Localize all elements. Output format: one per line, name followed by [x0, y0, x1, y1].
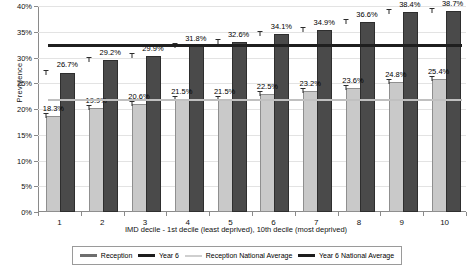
- error-whisker: [260, 32, 261, 36]
- y-tick-label: 25%: [17, 79, 32, 88]
- y-tick-label: 0%: [21, 208, 32, 217]
- error-cap: [301, 88, 306, 89]
- x-tick: [380, 212, 381, 216]
- data-label: 25.4%: [428, 67, 449, 76]
- y-tick: [34, 32, 38, 33]
- error-cap: [130, 53, 135, 54]
- data-label: 38.7%: [442, 0, 463, 8]
- y-tick: [34, 186, 38, 187]
- error-cap: [130, 101, 135, 102]
- error-cap: [87, 57, 92, 58]
- y-tick: [34, 58, 38, 59]
- bar-year6: [189, 46, 204, 212]
- legend-label: Year 6: [159, 252, 179, 259]
- data-label: 34.1%: [271, 22, 292, 31]
- y-tick: [34, 6, 38, 7]
- y-tick-label: 15%: [17, 130, 32, 139]
- bar-reception: [218, 99, 233, 212]
- error-whisker: [132, 102, 133, 106]
- error-cap: [301, 27, 306, 28]
- bar-year6: [103, 60, 118, 212]
- y-tick: [34, 161, 38, 162]
- data-label: 26.7%: [57, 60, 78, 69]
- gridline: [38, 32, 466, 33]
- reception-national-average-line: [48, 99, 462, 101]
- bar-year6: [60, 73, 75, 213]
- error-whisker: [303, 28, 304, 32]
- chart-legend: ReceptionYear 6Reception National Averag…: [72, 246, 402, 265]
- error-whisker: [46, 71, 47, 75]
- error-whisker: [346, 86, 347, 90]
- bar-reception: [346, 88, 361, 212]
- data-label: 29.2%: [100, 48, 121, 57]
- y-tick-label: 30%: [17, 53, 32, 62]
- bar-year6: [403, 12, 418, 212]
- error-cap: [386, 79, 391, 80]
- error-whisker: [346, 20, 347, 24]
- error-whisker: [89, 58, 90, 62]
- gridline: [38, 58, 466, 59]
- y-tick: [34, 83, 38, 84]
- data-label: 34.9%: [314, 18, 335, 27]
- bar-reception: [260, 94, 275, 212]
- error-whisker: [303, 89, 304, 93]
- bar-reception: [389, 82, 404, 212]
- error-whisker: [46, 114, 47, 118]
- data-label: 32.6%: [228, 30, 249, 39]
- legend-swatch-icon: [185, 255, 202, 257]
- error-cap: [44, 70, 49, 71]
- legend-item[interactable]: Reception: [80, 252, 133, 259]
- legend-label: Reception: [101, 252, 133, 259]
- y-tick-label: 5%: [21, 182, 32, 191]
- y-tick: [34, 109, 38, 110]
- x-tick: [166, 212, 167, 216]
- x-tick: [252, 212, 253, 216]
- error-cap: [386, 9, 391, 10]
- y-tick: [34, 135, 38, 136]
- bar-year6: [317, 30, 332, 212]
- error-cap: [344, 19, 349, 20]
- x-tick: [338, 212, 339, 216]
- data-label: 31.8%: [185, 34, 206, 43]
- data-label: 24.8%: [385, 70, 406, 79]
- bar-year6: [360, 22, 375, 212]
- data-label: 23.2%: [300, 79, 321, 88]
- legend-swatch-icon: [138, 254, 155, 257]
- data-label: 21.5%: [214, 87, 235, 96]
- legend-label: Year 6 National Average: [319, 252, 394, 259]
- x-tick: [423, 212, 424, 216]
- error-cap: [258, 31, 263, 32]
- x-tick: [209, 212, 210, 216]
- legend-swatch-icon: [80, 254, 97, 257]
- error-whisker: [388, 80, 389, 84]
- y-tick-label: 20%: [17, 105, 32, 114]
- error-whisker: [431, 77, 432, 81]
- x-tick: [81, 212, 82, 216]
- error-cap: [429, 8, 434, 9]
- bar-year6: [232, 42, 247, 212]
- bar-reception: [132, 104, 147, 212]
- data-label: 23.6%: [342, 76, 363, 85]
- prevalence-bar-chart: Prevalence 0%5%10%15%20%25%30%35%40% 18.…: [0, 0, 472, 271]
- x-axis-title: IMD decile - 1st decile (least deprived)…: [0, 225, 472, 234]
- bar-reception: [303, 91, 318, 212]
- bar-reception: [89, 108, 104, 212]
- bar-reception: [46, 116, 61, 212]
- bar-year6: [274, 34, 289, 212]
- error-cap: [44, 113, 49, 114]
- error-whisker: [89, 106, 90, 110]
- error-whisker: [431, 9, 432, 13]
- y-tick-label: 35%: [17, 27, 32, 36]
- error-whisker: [132, 54, 133, 58]
- data-label: 22.5%: [257, 82, 278, 91]
- error-cap: [215, 39, 220, 40]
- bar-reception: [175, 99, 190, 212]
- legend-label: Reception National Average: [206, 252, 293, 259]
- legend-item[interactable]: Year 6: [138, 252, 179, 259]
- x-tick: [466, 212, 467, 216]
- error-cap: [258, 91, 263, 92]
- bar-year6: [146, 56, 161, 212]
- legend-item[interactable]: Year 6 National Average: [298, 252, 394, 259]
- y-tick-label: 10%: [17, 156, 32, 165]
- legend-item[interactable]: Reception National Average: [185, 252, 293, 259]
